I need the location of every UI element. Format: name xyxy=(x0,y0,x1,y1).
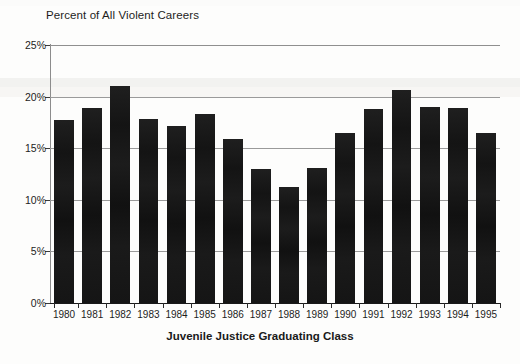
bar-1983 xyxy=(139,119,159,303)
x-tick-mark xyxy=(247,303,248,308)
x-tick-label-1994: 1994 xyxy=(447,309,469,320)
bar-1987 xyxy=(251,169,271,303)
x-tick-mark xyxy=(163,303,164,308)
x-tick-label-1980: 1980 xyxy=(53,309,75,320)
x-tick-label-1984: 1984 xyxy=(165,309,187,320)
bar-1989 xyxy=(307,168,327,303)
x-tick-label-1986: 1986 xyxy=(222,309,244,320)
bar-1980 xyxy=(54,120,74,303)
x-tick-mark xyxy=(416,303,417,308)
x-tick-mark xyxy=(359,303,360,308)
x-tick-mark xyxy=(472,303,473,308)
x-tick-mark xyxy=(303,303,304,308)
y-tick-label: 10% xyxy=(25,194,46,206)
x-tick-label-1990: 1990 xyxy=(334,309,356,320)
y-tick-label: 15% xyxy=(25,142,46,154)
x-tick-mark xyxy=(106,303,107,308)
x-tick-label-1992: 1992 xyxy=(390,309,412,320)
y-tick-label: 25% xyxy=(25,39,46,51)
x-tick-label-1985: 1985 xyxy=(194,309,216,320)
x-tick-label-1983: 1983 xyxy=(137,309,159,320)
y-tick-label: 20% xyxy=(25,91,46,103)
y-tick-label: 0% xyxy=(31,297,46,309)
x-tick-label-1989: 1989 xyxy=(306,309,328,320)
x-tick-mark xyxy=(275,303,276,308)
x-tick-label-1988: 1988 xyxy=(278,309,300,320)
scan-artifact-band-top xyxy=(0,0,520,6)
x-tick-label-1991: 1991 xyxy=(362,309,384,320)
bar-chart-figure: Percent of All Violent Careers 0%5%10%15… xyxy=(0,0,520,364)
plot-area xyxy=(50,45,500,303)
x-tick-label-1981: 1981 xyxy=(81,309,103,320)
bar-1990 xyxy=(335,133,355,303)
y-tick-label: 5% xyxy=(31,245,46,257)
x-tick-mark xyxy=(331,303,332,308)
x-tick-mark xyxy=(54,303,55,308)
bar-1995 xyxy=(476,133,496,303)
x-tick-label-1995: 1995 xyxy=(475,309,497,320)
bar-1992 xyxy=(392,90,412,303)
gridline-25% xyxy=(50,45,500,46)
bar-1986 xyxy=(223,139,243,303)
x-tick-mark xyxy=(500,303,501,308)
x-tick-mark xyxy=(191,303,192,308)
bar-1982 xyxy=(110,86,130,303)
x-tick-mark xyxy=(388,303,389,308)
chart-title: Percent of All Violent Careers xyxy=(46,9,199,21)
bar-1988 xyxy=(279,187,299,303)
x-tick-label-1993: 1993 xyxy=(419,309,441,320)
bar-1981 xyxy=(82,108,102,303)
bar-1984 xyxy=(167,126,187,304)
x-tick-mark xyxy=(444,303,445,308)
x-tick-mark xyxy=(219,303,220,308)
bar-1991 xyxy=(364,109,384,303)
x-tick-mark xyxy=(134,303,135,308)
bar-1985 xyxy=(195,114,215,303)
bar-1993 xyxy=(420,107,440,303)
x-tick-label-1987: 1987 xyxy=(250,309,272,320)
x-axis-title: Juvenile Justice Graduating Class xyxy=(0,330,520,342)
bar-1994 xyxy=(448,108,468,303)
x-tick-label-1982: 1982 xyxy=(109,309,131,320)
x-tick-mark xyxy=(78,303,79,308)
